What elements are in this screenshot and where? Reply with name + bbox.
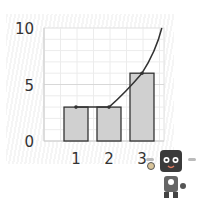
y-tick-labels: 0510 [15, 20, 34, 151]
bar-1 [64, 107, 88, 141]
bar-2 [97, 107, 121, 141]
y-tick-label: 5 [24, 77, 34, 95]
robot-icon [146, 150, 196, 198]
y-tick-label: 0 [24, 133, 34, 151]
x-tick-label: 3 [137, 150, 147, 168]
bar-chart: 0510 123 [0, 0, 213, 203]
y-tick-label: 10 [15, 20, 34, 38]
x-tick-labels: 123 [71, 150, 147, 168]
x-tick-label: 2 [104, 150, 114, 168]
x-tick-label: 1 [71, 150, 81, 168]
